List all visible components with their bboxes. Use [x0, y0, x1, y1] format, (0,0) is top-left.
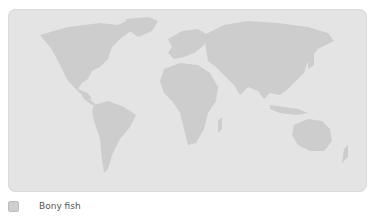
continent-north-america	[40, 21, 136, 99]
continent-australia	[292, 119, 332, 151]
continent-africa	[160, 63, 218, 145]
legend-label: Bony fish	[39, 201, 81, 211]
legend: Bony fish	[8, 199, 81, 213]
landmass-indonesia	[270, 105, 308, 115]
continent-europe	[168, 29, 208, 59]
continent-asia	[204, 21, 334, 99]
continent-south-america	[92, 101, 136, 173]
world-map[interactable]	[8, 9, 367, 192]
landmass-greenland	[126, 17, 158, 37]
landmass-new-zealand	[342, 145, 348, 163]
landmass-central-america	[78, 89, 96, 105]
landmass-madagascar	[218, 117, 222, 133]
world-map-land	[8, 9, 367, 192]
legend-swatch-bony-fish[interactable]	[8, 201, 19, 212]
